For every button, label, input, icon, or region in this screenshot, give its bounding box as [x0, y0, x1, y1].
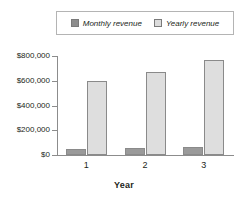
legend-label-yearly-revenue: Yearly revenue	[166, 19, 219, 28]
chart-legend: Monthly revenue Yearly revenue	[56, 11, 234, 35]
revenue-bar-chart: Monthly revenue Yearly revenue $0$200,00…	[0, 0, 248, 202]
y-axis-label: $600,000	[0, 77, 50, 85]
y-axis-tick	[52, 106, 57, 107]
y-axis-line	[57, 56, 58, 156]
y-axis-tick	[52, 155, 57, 156]
y-axis-label: $400,000	[0, 102, 50, 110]
bar-monthly-year-2	[125, 148, 145, 155]
x-axis-label: 2	[125, 160, 165, 170]
y-axis-tick	[52, 130, 57, 131]
bar-yearly-year-2	[146, 72, 166, 155]
bar-monthly-year-3	[183, 147, 203, 155]
legend-swatch-monthly-icon	[71, 19, 79, 27]
bar-yearly-year-1	[87, 81, 107, 155]
bar-monthly-year-1	[66, 149, 86, 155]
y-axis-label: $800,000	[0, 52, 50, 60]
legend-swatch-yearly-icon	[154, 19, 162, 27]
legend-label-monthly-revenue: Monthly revenue	[83, 19, 142, 28]
x-axis-line	[57, 155, 234, 156]
y-axis-tick	[52, 56, 57, 57]
y-axis-label: $0	[0, 151, 50, 159]
x-axis-label: 3	[184, 160, 224, 170]
legend-entry-monthly-revenue: Monthly revenue	[71, 19, 142, 28]
x-axis-title: Year	[0, 180, 248, 190]
y-axis-tick	[52, 81, 57, 82]
y-axis-label: $200,000	[0, 126, 50, 134]
x-axis-label: 1	[66, 160, 106, 170]
legend-entry-yearly-revenue: Yearly revenue	[154, 19, 219, 28]
bar-yearly-year-3	[204, 60, 224, 155]
